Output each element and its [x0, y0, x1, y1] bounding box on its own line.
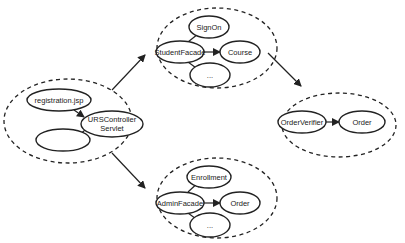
node-student-more: ...: [190, 63, 230, 87]
node-student-facade: StudentFacade: [155, 41, 206, 63]
svg-text:Order: Order: [352, 118, 372, 127]
svg-text:URSController: URSController: [88, 115, 137, 124]
node-course: Course: [220, 41, 260, 63]
svg-text:Enrollment: Enrollment: [191, 173, 228, 182]
node-signon: SignOn: [189, 16, 229, 38]
svg-text:OrderVerifier: OrderVerifier: [281, 118, 324, 127]
node-empty: [36, 129, 90, 151]
node-enrollment: Enrollment: [187, 166, 231, 188]
node-admin-facade: AdminFacade: [156, 192, 204, 214]
svg-text:StudentFacade: StudentFacade: [155, 48, 206, 57]
svg-text:Course: Course: [228, 48, 252, 57]
node-registration-jsp: registration.jsp: [27, 89, 91, 111]
node-urs-controller-servlet: URSController Servlet: [81, 111, 143, 137]
edge-registration-to-urs: [74, 110, 84, 117]
node-order-verifier: OrderVerifier: [278, 111, 326, 133]
svg-text:...: ...: [207, 221, 213, 230]
svg-text:Servlet: Servlet: [100, 124, 124, 133]
node-admin-more: ...: [190, 213, 230, 237]
svg-text:AdminFacade: AdminFacade: [157, 199, 203, 208]
architecture-diagram: registration.jsp URSController Servlet S…: [0, 0, 405, 243]
svg-text:registration.jsp: registration.jsp: [35, 96, 84, 105]
svg-text:Order: Order: [230, 199, 250, 208]
node-order: Order: [339, 111, 385, 133]
node-admin-order: Order: [220, 192, 260, 214]
edge-web-to-student: [112, 55, 145, 90]
svg-text:SignOn: SignOn: [196, 23, 221, 32]
edge-student-to-order: [268, 53, 301, 86]
svg-text:...: ...: [207, 71, 213, 80]
edge-web-to-admin: [112, 153, 145, 188]
